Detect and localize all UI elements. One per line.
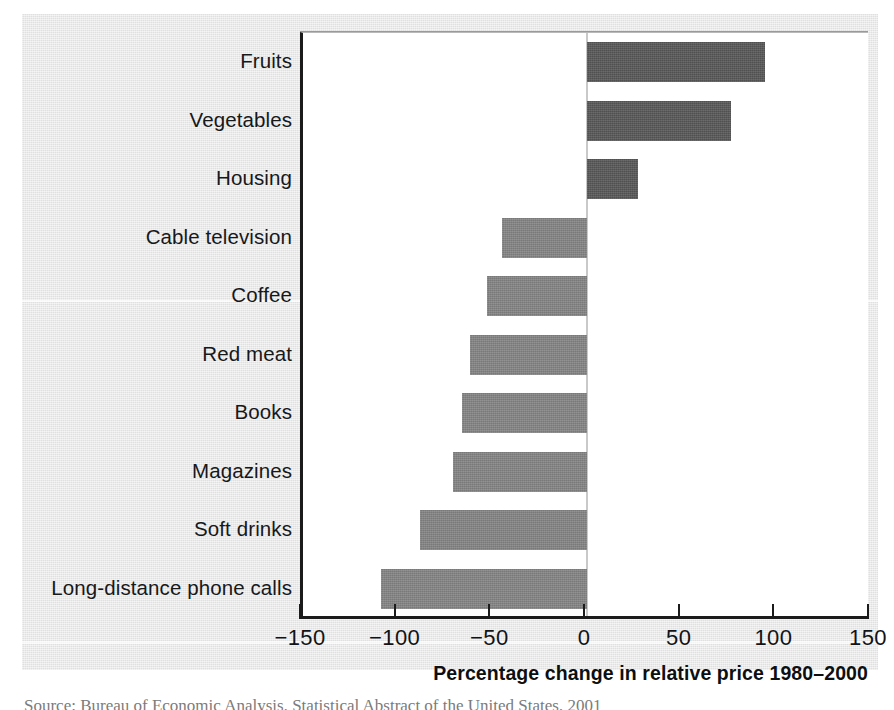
axis-tick-label-100: 100 — [754, 625, 792, 651]
source-note: Source: Bureau of Economic Analysis, Sta… — [24, 697, 784, 710]
category-label-soft-drinks: Soft drinks — [14, 519, 292, 540]
axis-tick-label-neg150: −150 — [274, 625, 325, 651]
bar-books — [462, 393, 587, 433]
axis-tick-neg50 — [488, 604, 490, 619]
value-axis-title: Percentage change in relative price 1980… — [300, 662, 868, 685]
category-axis: FruitsVegetablesHousingCable televisionC… — [14, 32, 292, 617]
category-label-vegetables: Vegetables — [14, 110, 292, 131]
bar-cable-television — [502, 218, 587, 258]
axis-tick-label-neg100: −100 — [369, 625, 420, 651]
category-label-magazines: Magazines — [14, 461, 292, 482]
category-label-fruits: Fruits — [14, 51, 292, 72]
axis-tick-label-150: 150 — [849, 625, 887, 651]
axis-tick-0 — [583, 604, 585, 619]
bar-magazines — [453, 452, 587, 492]
bar-housing — [587, 159, 638, 199]
axis-tick-label-neg50: −50 — [470, 625, 509, 651]
figure-canvas: FruitsVegetablesHousingCable televisionC… — [0, 0, 894, 710]
axis-tick-neg100 — [394, 604, 396, 619]
category-label-long-distance-phone-calls: Long-distance phone calls — [14, 578, 292, 599]
bar-fruits — [587, 42, 765, 82]
axis-tick-50 — [678, 604, 680, 619]
bar-vegetables — [587, 101, 731, 141]
axis-tick-150 — [867, 604, 869, 619]
axis-tick-label-0: 0 — [578, 625, 591, 651]
category-label-books: Books — [14, 402, 292, 423]
axis-tick-label-50: 50 — [666, 625, 691, 651]
bar-coffee — [487, 276, 587, 316]
category-label-cable-television: Cable television — [14, 227, 292, 248]
plot-area — [300, 32, 868, 617]
bar-long-distance-phone-calls — [381, 569, 587, 609]
category-label-coffee: Coffee — [14, 285, 292, 306]
category-label-housing: Housing — [14, 168, 292, 189]
bar-soft-drinks — [420, 510, 587, 550]
scan-seam-lower — [22, 641, 878, 644]
bar-red-meat — [470, 335, 587, 375]
category-label-red-meat: Red meat — [14, 344, 292, 365]
axis-tick-neg150 — [299, 604, 301, 619]
axis-tick-100 — [772, 604, 774, 619]
